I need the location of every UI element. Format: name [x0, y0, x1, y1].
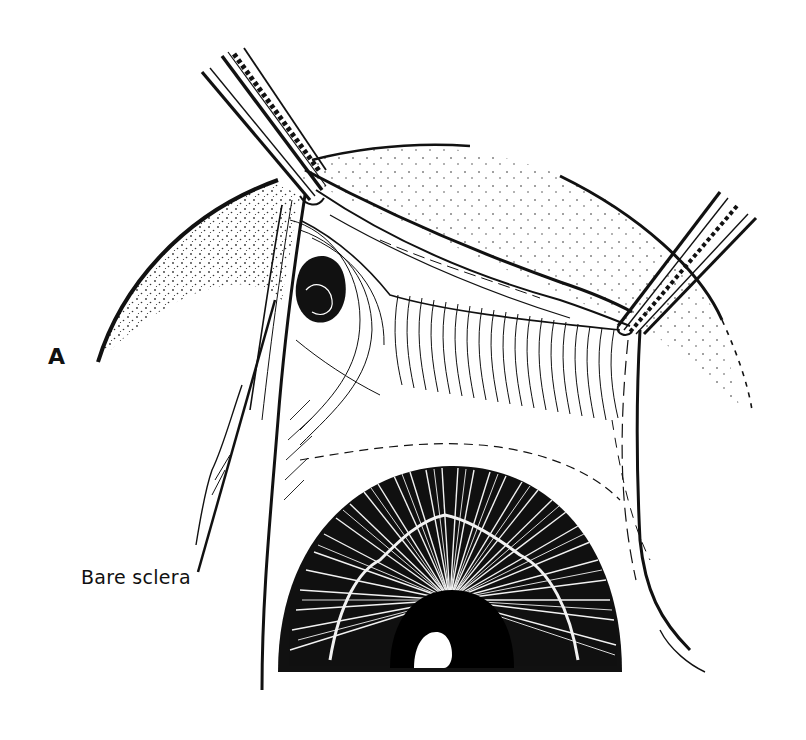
illustration: A Bare sclera [0, 0, 806, 740]
panel-label: A [48, 344, 65, 369]
iris [278, 466, 622, 672]
bare-sclera-label: Bare sclera [81, 566, 191, 588]
muscle-fibers [395, 295, 618, 420]
eye-surgery-drawing [0, 0, 806, 740]
conjunctival-fold [290, 220, 384, 445]
bare-sclera-leader-line [196, 300, 275, 572]
